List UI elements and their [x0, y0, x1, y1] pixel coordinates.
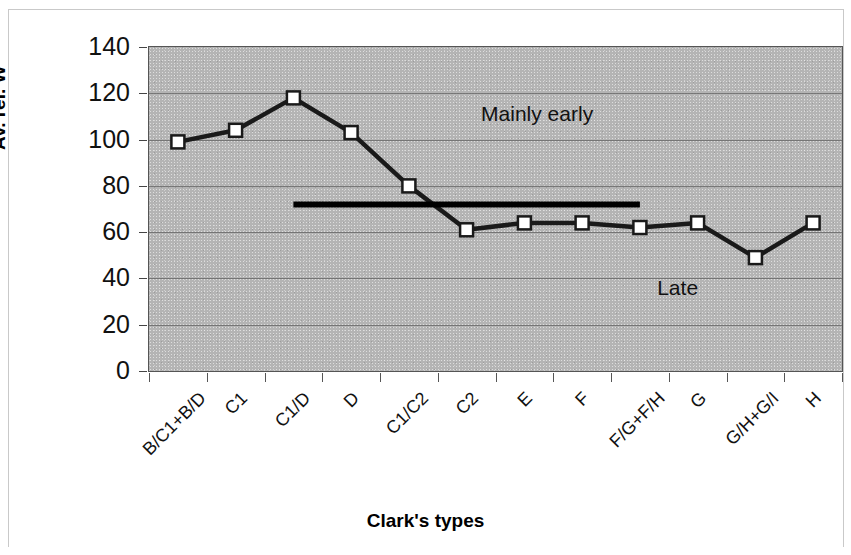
x-tick-mark	[322, 373, 323, 382]
y-tick-mark-0	[139, 371, 147, 372]
y-tick-label-140: 140	[30, 34, 130, 59]
x-axis-label-1: C1	[220, 388, 251, 419]
data-point-marker	[518, 216, 531, 229]
x-axis-label-2: C1/D	[271, 388, 315, 432]
data-point-marker	[402, 179, 415, 192]
x-tick-mark	[553, 373, 554, 382]
x-tick-mark	[727, 373, 728, 382]
x-axis-label-10: G/H+G/I	[722, 388, 784, 450]
y-tick-label-40: 40	[30, 265, 130, 290]
x-tick-mark	[842, 373, 843, 382]
data-point-marker	[807, 216, 820, 229]
x-axis-label-9: G	[686, 388, 711, 413]
x-tick-mark	[611, 373, 612, 382]
y-tick-mark-120	[139, 93, 147, 94]
data-point-marker	[576, 216, 589, 229]
x-tick-mark	[438, 373, 439, 382]
x-tick-mark	[149, 373, 150, 382]
y-tick-label-100: 100	[30, 127, 130, 152]
y-tick-label-80: 80	[30, 173, 130, 198]
data-point-marker	[345, 126, 358, 139]
data-point-marker	[171, 135, 184, 148]
x-tick-mark	[207, 373, 208, 382]
x-tick-mark	[265, 373, 266, 382]
x-axis-label-3: D	[340, 388, 364, 412]
y-tick-mark-40	[139, 278, 147, 279]
annotation-late: Late	[657, 276, 698, 300]
plot-area: Mainly early Late	[148, 46, 843, 372]
data-point-marker	[691, 216, 704, 229]
y-tick-label-20: 20	[30, 312, 130, 337]
data-point-marker	[633, 221, 646, 234]
x-tick-mark	[496, 373, 497, 382]
y-tick-label-60: 60	[30, 219, 130, 244]
annotation-mainly-early: Mainly early	[481, 102, 593, 126]
x-axis-label-4: C1/C2	[382, 388, 433, 439]
data-point-marker	[287, 91, 300, 104]
x-axis-title: Clark's types	[0, 510, 851, 532]
y-axis-title: Av. rel. W	[0, 66, 10, 150]
y-tick-label-120: 120	[30, 80, 130, 105]
x-axis-label-5: C2	[451, 388, 482, 419]
x-axis-label-11: H	[802, 388, 826, 412]
x-tick-mark	[669, 373, 670, 382]
y-tick-mark-80	[139, 186, 147, 187]
data-point-marker	[229, 124, 242, 137]
y-tick-mark-20	[139, 325, 147, 326]
y-tick-mark-100	[139, 140, 147, 141]
x-axis-label-8: F/G+F/H	[605, 388, 669, 452]
data-point-marker	[460, 223, 473, 236]
x-tick-mark	[784, 373, 785, 382]
x-axis-label-0: B/C1+B/D	[139, 388, 211, 460]
y-tick-mark-140	[139, 47, 147, 48]
data-point-marker	[749, 251, 762, 264]
x-tick-mark	[380, 373, 381, 382]
chart-figure: Av. rel. W 020406080100120140 Mainly ear…	[0, 0, 851, 555]
y-tick-mark-60	[139, 232, 147, 233]
x-axis-label-7: F	[572, 388, 595, 411]
x-axis-label-6: E	[514, 388, 537, 411]
series-layer	[149, 47, 842, 371]
y-tick-label-0: 0	[30, 358, 130, 383]
